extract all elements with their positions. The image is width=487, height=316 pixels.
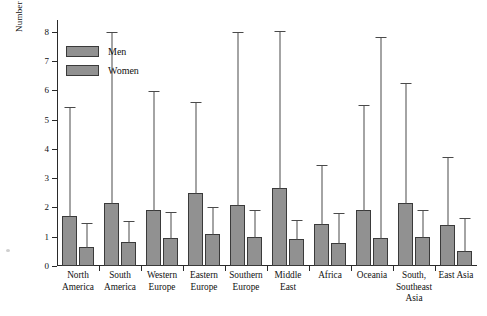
bar-men xyxy=(146,20,162,266)
error-bar-line xyxy=(380,38,381,240)
bar-group xyxy=(267,20,309,266)
error-bar-cap xyxy=(459,218,470,219)
bar-rect xyxy=(398,203,414,266)
bar-rect xyxy=(415,237,431,266)
bar-rect xyxy=(205,234,221,266)
error-bar-cap xyxy=(207,207,218,208)
error-bar-line xyxy=(86,224,87,248)
error-bar-line xyxy=(254,211,255,238)
error-bar-line xyxy=(212,208,213,235)
error-bar-line xyxy=(279,32,280,190)
error-bar-line xyxy=(338,214,339,244)
error-bar-line xyxy=(447,158,448,226)
x-axis-label-line: East Asia xyxy=(429,270,483,282)
bar-women xyxy=(247,20,263,266)
y-tick-label: 7 xyxy=(45,57,50,66)
error-bar-line xyxy=(195,103,196,193)
legend-entry-women: Women xyxy=(66,62,139,78)
bar-rect xyxy=(440,225,456,266)
bar-rect xyxy=(289,239,305,266)
x-axis-labels: NorthAmericaSouthAmericaWesternEuropeEas… xyxy=(57,270,477,316)
bar-women xyxy=(415,20,431,266)
error-bar-cap xyxy=(400,83,411,84)
legend-swatch-men xyxy=(66,46,99,57)
bar-men xyxy=(272,20,288,266)
bar-rect xyxy=(62,216,78,266)
error-bar-cap xyxy=(165,212,176,213)
legend-label-women: Women xyxy=(108,65,139,76)
x-axis-label-line: Southeast xyxy=(387,282,441,294)
y-tick-mark xyxy=(52,266,57,267)
bar-group xyxy=(141,20,183,266)
bar-chart: Number of partners desired 012345678 Nor… xyxy=(0,0,487,316)
error-bar-line xyxy=(296,221,297,240)
error-bar-cap xyxy=(333,213,344,214)
error-bar-line xyxy=(153,92,154,212)
error-bar-line xyxy=(69,108,70,217)
bar-women xyxy=(163,20,179,266)
x-axis-label-line: Asia xyxy=(387,293,441,305)
bar-men xyxy=(314,20,330,266)
x-axis-label: East Asia xyxy=(429,270,483,282)
bar-women xyxy=(331,20,347,266)
legend-swatch-women xyxy=(66,65,99,76)
legend-entry-men: Men xyxy=(66,43,139,59)
bar-group xyxy=(435,20,477,266)
y-tick-label: 0 xyxy=(45,262,50,271)
bar-group xyxy=(309,20,351,266)
bar-men xyxy=(398,20,414,266)
bar-women xyxy=(457,20,473,266)
bar-rect xyxy=(146,210,162,266)
bar-rect xyxy=(314,224,330,266)
y-tick-label: 4 xyxy=(45,144,50,153)
bar-group xyxy=(393,20,435,266)
error-bar-line xyxy=(422,211,423,238)
y-tick-label: 2 xyxy=(45,203,50,212)
error-bar-cap xyxy=(417,210,428,211)
error-bar-cap xyxy=(123,221,134,222)
bar-group xyxy=(351,20,393,266)
error-bar-cap xyxy=(274,31,285,32)
error-bar-line xyxy=(128,222,129,244)
error-bar-cap xyxy=(106,32,117,33)
chart-legend: Men Women xyxy=(66,43,139,81)
bar-women xyxy=(205,20,221,266)
bar-men xyxy=(440,20,456,266)
error-bar-line xyxy=(237,33,238,205)
error-bar-line xyxy=(405,84,406,204)
bar-rect xyxy=(121,242,137,266)
error-bar-cap xyxy=(232,32,243,33)
y-tick-label: 8 xyxy=(45,27,50,36)
error-bar-cap xyxy=(358,105,369,106)
bar-rect xyxy=(331,243,347,266)
bar-women xyxy=(289,20,305,266)
error-bar-line xyxy=(321,166,322,224)
bar-group xyxy=(183,20,225,266)
bar-men xyxy=(188,20,204,266)
bar-rect xyxy=(163,238,179,266)
error-bar-cap xyxy=(442,157,453,158)
bar-rect xyxy=(457,251,473,266)
error-bar-line xyxy=(170,213,171,238)
bar-rect xyxy=(230,205,246,267)
x-axis-label-line: East xyxy=(261,282,315,294)
error-bar-line xyxy=(464,219,465,253)
bar-rect xyxy=(272,188,288,266)
bar-women xyxy=(373,20,389,266)
bar-group xyxy=(225,20,267,266)
error-bar-cap xyxy=(249,210,260,211)
y-axis-title: Number of partners desired xyxy=(14,0,24,60)
error-bar-cap xyxy=(291,220,302,221)
bar-rect xyxy=(188,193,204,266)
error-bar-cap xyxy=(190,102,201,103)
bar-men xyxy=(356,20,372,266)
bar-rect xyxy=(247,237,263,266)
bar-men xyxy=(230,20,246,266)
legend-label-men: Men xyxy=(108,46,126,57)
bar-rect xyxy=(373,238,389,266)
error-bar-cap xyxy=(316,165,327,166)
y-tick-label: 6 xyxy=(45,86,50,95)
scan-artifact xyxy=(6,249,10,252)
bar-rect xyxy=(104,203,120,266)
y-tick-label: 3 xyxy=(45,174,50,183)
